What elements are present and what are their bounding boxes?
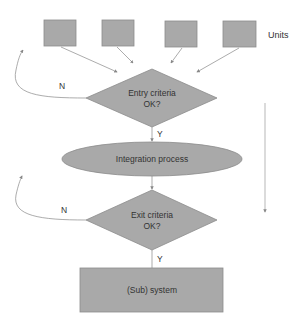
exit-criteria-text-1: Exit criteria (131, 210, 173, 220)
integration-process-text: Integration process (116, 154, 188, 164)
unit-box-1 (44, 20, 76, 46)
exit-criteria-text-2: OK? (143, 221, 160, 231)
subsystem-text: (Sub) system (127, 285, 177, 295)
unit-box-3 (165, 21, 197, 47)
entry-criteria-diamond (86, 69, 217, 127)
entry-yes-label: Y (157, 129, 163, 139)
arrow-unit-2 (117, 47, 133, 63)
unit-box-2 (102, 20, 134, 46)
integration-flow-diagram: Units Entry criteria OK? N Y Integration… (0, 0, 302, 325)
units-label: Units (268, 30, 289, 40)
exit-criteria-diamond (86, 190, 217, 250)
unit-box-4 (223, 21, 256, 47)
exit-no-label: N (61, 205, 67, 215)
arrow-unit-3 (171, 48, 182, 63)
exit-yes-label: Y (157, 254, 163, 264)
arrow-unit-4 (197, 48, 239, 72)
entry-no-loop-arrow (15, 50, 86, 98)
entry-criteria-text-1: Entry criteria (128, 88, 176, 98)
entry-criteria-text-2: OK? (143, 99, 160, 109)
entry-no-label: N (59, 81, 65, 91)
arrow-unit-1 (61, 47, 117, 72)
exit-no-loop-arrow (16, 176, 86, 220)
